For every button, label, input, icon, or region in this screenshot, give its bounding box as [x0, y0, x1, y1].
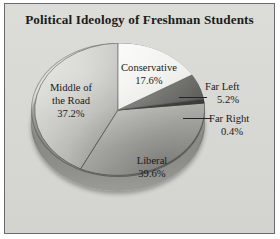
pie-label-middle-name-line2: the Road — [30, 94, 112, 107]
leader-line-far-right — [183, 118, 211, 119]
pie-chart — [29, 33, 209, 213]
pie-label-far-left: Far Left 5.2% — [205, 80, 279, 106]
pie-label-liberal-value: 39.6% — [113, 167, 191, 180]
pie-label-middle-value: 37.2% — [30, 107, 112, 120]
chart-title: Political Ideology of Freshman Students — [5, 12, 274, 28]
leader-line-far-left — [179, 97, 207, 98]
pie-label-conservative: Conservative 17.6% — [106, 61, 192, 87]
pie-label-far-left-name: Far Left — [205, 80, 279, 93]
pie-label-far-right-name: Far Right — [209, 112, 280, 125]
pie-label-far-left-value: 5.2% — [205, 93, 279, 106]
pie-label-liberal: Liberal 39.6% — [113, 154, 191, 180]
pie-label-far-right: Far Right 0.4% — [209, 112, 280, 138]
pie-label-liberal-name: Liberal — [113, 154, 191, 167]
pie-label-middle-of-the-road: Middle of the Road 37.2% — [30, 81, 112, 120]
pie-label-middle-name-line1: Middle of — [30, 81, 112, 94]
pie-label-conservative-value: 17.6% — [106, 74, 192, 87]
pie-label-conservative-name: Conservative — [106, 61, 192, 74]
chart-screenshot: Political Ideology of Freshman Students — [0, 0, 280, 239]
pie-label-far-right-value: 0.4% — [209, 125, 280, 138]
chart-frame: Political Ideology of Freshman Students — [4, 3, 275, 234]
